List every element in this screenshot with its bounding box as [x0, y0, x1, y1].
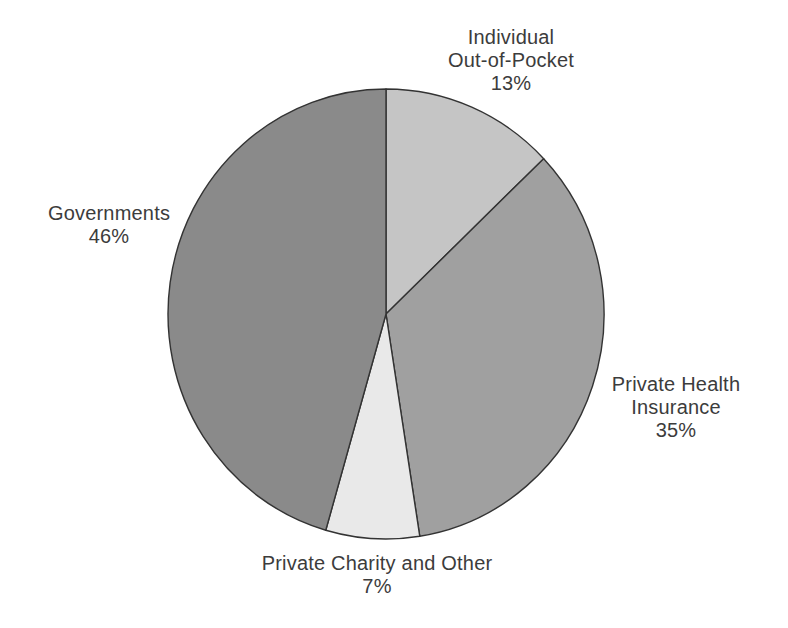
slice-label-private-health-insurance: Private Health Insurance 35% — [612, 373, 740, 442]
slice-label-line: Out-of-Pocket — [448, 49, 574, 72]
slice-label-line: Governments — [48, 202, 170, 225]
slice-label-line: Private Charity and Other — [262, 552, 493, 575]
slice-label-line: Individual — [448, 26, 574, 49]
slice-label-governments: Governments 46% — [48, 202, 170, 248]
slice-percent-label: 35% — [612, 419, 740, 442]
slice-label-line: Private Health — [612, 373, 740, 396]
slice-label-private-charity-and-other: Private Charity and Other 7% — [262, 552, 493, 598]
pie-chart-figure: Individual Out-of-Pocket 13% Private Hea… — [0, 0, 788, 628]
slice-percent-label: 13% — [448, 72, 574, 95]
slice-label-line: Insurance — [612, 396, 740, 419]
slice-percent-label: 46% — [48, 225, 170, 248]
slice-label-individual-out-of-pocket: Individual Out-of-Pocket 13% — [448, 26, 574, 95]
pie-chart — [0, 0, 788, 628]
slice-percent-label: 7% — [262, 575, 493, 598]
